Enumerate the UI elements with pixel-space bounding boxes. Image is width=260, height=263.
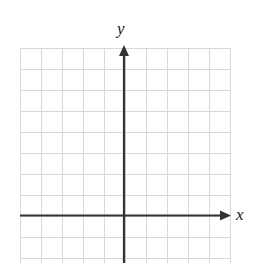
x-axis [20,211,231,221]
y-axis [119,45,129,263]
x-axis-label: x [236,206,244,223]
x-axis-arrowhead-icon [220,211,231,221]
axes-layer [0,0,260,263]
y-axis-arrowhead-icon [119,45,129,56]
coordinate-plane-figure: y x [0,0,260,263]
y-axis-label: y [117,20,125,37]
